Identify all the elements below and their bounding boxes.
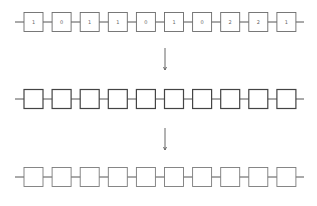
cell-value: 0 (201, 19, 204, 25)
sequence-cell (52, 90, 71, 109)
sequence-cell (249, 90, 268, 109)
sequence-cell (221, 90, 240, 109)
cell-box (277, 90, 296, 109)
cell-value: 0 (60, 19, 63, 25)
cell-box (108, 90, 127, 109)
cell-box (136, 90, 155, 109)
intermediate-sequence-row (15, 90, 304, 109)
sequence-cell: 1 (80, 13, 99, 32)
sequence-cell: 2 (249, 13, 268, 32)
sequence-cell (277, 90, 296, 109)
sequence-cell (52, 168, 71, 187)
cell-value: 2 (229, 19, 232, 25)
cell-value: 1 (88, 19, 91, 25)
output-sequence-row (15, 168, 304, 187)
cell-box (165, 90, 184, 109)
sequence-cell: 1 (165, 13, 184, 32)
cell-value: 0 (144, 19, 147, 25)
sequence-cell: 1 (108, 13, 127, 32)
sequence-cell: 0 (136, 13, 155, 32)
cell-box (221, 168, 240, 187)
cell-box (24, 90, 43, 109)
sequence-cell (193, 90, 212, 109)
input-sequence-row: 1011010221 (15, 13, 304, 32)
cell-box (221, 90, 240, 109)
cell-box (136, 168, 155, 187)
sequence-cell (221, 168, 240, 187)
cell-box (249, 90, 268, 109)
sequence-cell (193, 168, 212, 187)
sequence-cell (108, 168, 127, 187)
cell-box (249, 168, 268, 187)
down-arrow-icon (164, 48, 167, 70)
cell-box (108, 168, 127, 187)
sequence-cell (136, 90, 155, 109)
sequence-cell: 2 (221, 13, 240, 32)
sequence-cell (249, 168, 268, 187)
sequence-cell (24, 90, 43, 109)
cell-box (165, 168, 184, 187)
cell-box (277, 168, 296, 187)
sequence-diagram: 1011010221 (0, 0, 317, 206)
cell-box (80, 168, 99, 187)
cell-box (193, 90, 212, 109)
cell-value: 1 (285, 19, 288, 25)
cell-box (80, 90, 99, 109)
cell-value: 1 (172, 19, 175, 25)
sequence-cell (277, 168, 296, 187)
sequence-cell (108, 90, 127, 109)
sequence-cell: 1 (24, 13, 43, 32)
sequence-cell (80, 168, 99, 187)
cell-box (52, 168, 71, 187)
sequence-cell (80, 90, 99, 109)
sequence-cell (165, 90, 184, 109)
sequence-cell: 1 (277, 13, 296, 32)
cell-box (24, 168, 43, 187)
down-arrow-icon (164, 128, 167, 150)
cell-value: 1 (116, 19, 119, 25)
sequence-cell (136, 168, 155, 187)
sequence-cell (165, 168, 184, 187)
sequence-cell (24, 168, 43, 187)
sequence-cell: 0 (193, 13, 212, 32)
cell-box (52, 90, 71, 109)
cell-value: 1 (32, 19, 35, 25)
cell-box (193, 168, 212, 187)
cell-value: 2 (257, 19, 260, 25)
sequence-cell: 0 (52, 13, 71, 32)
